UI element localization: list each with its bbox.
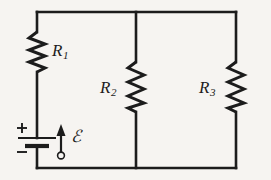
resistor-2-label: R2: [100, 79, 116, 96]
emf-label: ℰ: [71, 128, 81, 145]
circuit-schematic-svg: [0, 0, 271, 180]
resistor-2-label-subscript: 2: [111, 86, 117, 98]
resistor-1-zigzag: [29, 32, 45, 72]
circuit-diagram-figure: R1 R2 R3 ℰ: [0, 0, 271, 180]
resistor-1-label-letter: R: [52, 41, 62, 60]
resistor-2-label-letter: R: [100, 78, 110, 97]
resistor-3-label-subscript: 3: [210, 86, 216, 98]
resistor-1-label-subscript: 1: [63, 49, 69, 61]
battery-plus-sign: [17, 123, 27, 133]
resistor-3-zigzag: [228, 62, 244, 112]
resistor-3-label: R3: [199, 79, 215, 96]
emf-direction-arrow-icon: [57, 124, 66, 159]
resistor-2-zigzag: [128, 62, 144, 112]
resistor-3-label-letter: R: [199, 78, 209, 97]
resistor-1-label: R1: [52, 42, 68, 59]
